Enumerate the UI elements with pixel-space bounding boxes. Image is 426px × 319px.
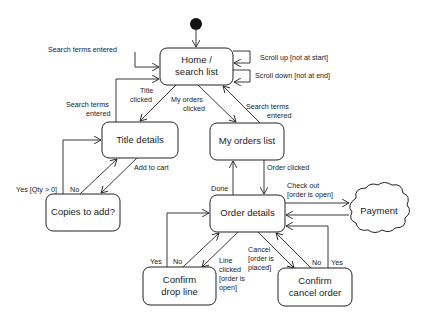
transition-done: Done [211, 184, 228, 193]
state-my-orders-label: My orders list [219, 135, 276, 146]
transition-line-clicked-3: [order is [219, 274, 245, 283]
state-title-details: Title details [102, 122, 178, 158]
state-confirm-cancel-label-2: cancel order [289, 287, 341, 298]
transition-yes-cancel: Yes [331, 258, 343, 267]
transition-line-clicked-1: Line [219, 256, 233, 265]
state-copies-to-add: Copies to add? [46, 194, 120, 231]
state-home-label-1: Home / [181, 54, 212, 65]
state-order-details: Order details [210, 195, 285, 232]
state-payment: Payment [350, 183, 410, 233]
transition-line-clicked-4: open] [219, 283, 237, 292]
transition-search-from-title-1: Search terms [66, 100, 109, 109]
transition-check-out-2: [order is open] [287, 190, 333, 199]
initial-state [190, 18, 202, 30]
state-confirm-drop-label-2: drop line [161, 286, 197, 297]
state-diagram: Home / search list Search terms entered … [0, 0, 426, 319]
state-confirm-drop-line: Confirm drop line [143, 267, 216, 305]
transition-search-from-orders-1: Search terms [246, 102, 289, 111]
transition-search-from-title-2: entered [86, 109, 110, 118]
transition-order-clicked: Order clicked [267, 163, 309, 172]
transition-scroll-down: Scroll down [not at end] [255, 71, 330, 80]
state-confirm-cancel-label-1: Confirm [298, 275, 331, 286]
state-home-label-2: search list [175, 66, 218, 77]
transition-scroll-up: Scroll up [not at start] [260, 53, 328, 62]
transition-search-self: Search terms entered [48, 45, 117, 54]
transition-cancel-3: placed] [248, 263, 271, 272]
state-home: Home / search list [160, 48, 233, 85]
transition-line-clicked-2: clicked [219, 265, 241, 274]
transition-search-from-orders-2: entered [267, 111, 291, 120]
state-payment-label: Payment [360, 205, 398, 216]
transition-yes-drop: Yes [150, 257, 162, 266]
state-confirm-drop-label-1: Confirm [163, 274, 196, 285]
transition-my-orders-clicked-1: My orders [171, 95, 203, 104]
state-copies-label: Copies to add? [51, 206, 115, 217]
state-confirm-cancel-order: Confirm cancel order [278, 268, 352, 306]
transition-cancel-1: Cancel [248, 245, 271, 254]
transition-title-clicked-2: clicked [130, 95, 152, 104]
transition-no-drop: No [173, 257, 182, 266]
state-title-details-label: Title details [116, 134, 164, 145]
transition-title-clicked-1: Title [140, 86, 153, 95]
transition-no-copies: No [70, 185, 79, 194]
state-order-details-label: Order details [220, 207, 275, 218]
transition-check-out-1: Check out [287, 181, 319, 190]
transition-my-orders-clicked-2: clicked [183, 104, 205, 113]
transition-no-cancel: No [312, 258, 321, 267]
transition-cancel-2: [order is [248, 254, 274, 263]
transition-add-to-cart: Add to cart [134, 163, 169, 172]
state-my-orders-list: My orders list [210, 123, 284, 160]
transition-yes-qty: Yes [Qty > 0] [16, 185, 57, 194]
